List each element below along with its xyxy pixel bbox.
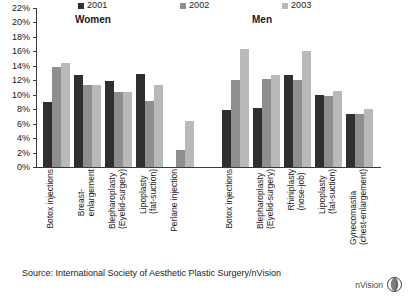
y-axis-tick-label: 6% <box>17 120 30 129</box>
y-axis-tick-label: 20% <box>12 18 30 27</box>
chart-container: 2001 2002 2003 Women Men 22%20%18%16%14%… <box>0 0 409 302</box>
plot-area <box>36 8 381 168</box>
y-axis-tick-label: 14% <box>12 62 30 71</box>
y-axis-tick <box>33 66 36 67</box>
x-axis-category-label: Perlane injection <box>170 169 180 232</box>
bar-women-2003 <box>61 63 70 167</box>
bar-women-2003 <box>154 85 163 167</box>
bar-men-2003 <box>271 75 280 167</box>
logo-label: nVision <box>355 280 383 290</box>
bar-men-2003 <box>240 49 249 167</box>
bar-men-2003 <box>364 109 373 167</box>
bar-men-2001 <box>253 108 262 167</box>
bar-women-2003 <box>92 85 101 167</box>
y-axis-tick-label: 10% <box>12 91 30 100</box>
y-axis-tick-label: 2% <box>17 149 30 158</box>
bar-women-2002 <box>176 150 185 167</box>
bar-men-2001 <box>284 75 293 168</box>
bar-men-2001 <box>222 110 231 167</box>
bar-women-2001 <box>105 81 114 167</box>
bar-women-2001 <box>74 75 83 167</box>
y-axis-tick <box>33 8 36 9</box>
bar-men-2002 <box>355 114 364 167</box>
x-axis-category-label: Botox injections <box>225 169 235 229</box>
bar-men-2002 <box>293 80 302 167</box>
bar-men-2002 <box>324 96 333 167</box>
bar-men-2002 <box>231 80 240 167</box>
y-axis-tick-label: 0% <box>17 163 30 172</box>
y-axis-tick <box>33 167 36 168</box>
x-axis-category-label: Rhiniplasty (nose-job) <box>287 169 306 211</box>
x-axis-category-label: Breast- enlargement <box>77 169 96 216</box>
y-axis-tick <box>33 138 36 139</box>
bar-men-2002 <box>262 79 271 167</box>
x-axis-category-label: Lipoplasty (fat-suction) <box>139 169 158 214</box>
x-axis-line <box>36 167 381 168</box>
y-axis-tick-label: 8% <box>17 105 30 114</box>
bar-men-2001 <box>315 95 324 167</box>
x-axis-category-label: Lipoplasty (fat-suction) <box>318 169 337 214</box>
y-axis-tick-label: 22% <box>12 4 30 13</box>
x-axis-category-label: Blepharoplasty (Eyelid-surgery) <box>256 169 275 229</box>
y-axis-tick-label: 16% <box>12 47 30 56</box>
bar-women-2003 <box>123 92 132 167</box>
y-axis-tick <box>33 22 36 23</box>
bar-women-2003 <box>185 121 194 167</box>
y-axis-tick-label: 18% <box>12 33 30 42</box>
bar-women-2002 <box>83 85 92 167</box>
y-axis-tick <box>33 80 36 81</box>
bar-women-2002 <box>114 92 123 167</box>
y-axis-tick-label: 4% <box>17 134 30 143</box>
y-axis-labels: 22%20%18%16%14%12%10%8%6%4%2%0% <box>0 8 34 168</box>
bar-men-2003 <box>302 51 311 167</box>
x-axis-category-label: Botox injections <box>46 169 56 229</box>
y-axis-tick <box>33 37 36 38</box>
globe-icon <box>386 276 403 293</box>
x-axis-category-label: Blepharoplasty (Eyelid-surgery) <box>108 169 127 229</box>
source-note: Source: International Society of Aesthet… <box>22 268 281 279</box>
bar-women-2002 <box>145 101 154 167</box>
x-axis-category-label: Gynecomastia (chest-enlargement) <box>349 169 368 245</box>
nvision-logo: nVision <box>355 276 403 293</box>
bar-men-2001 <box>346 114 355 167</box>
bar-women-2001 <box>136 74 145 167</box>
x-axis-labels: Botox injectionsBreast- enlargementBleph… <box>36 169 381 261</box>
bar-men-2003 <box>333 91 342 167</box>
y-axis-tick <box>33 51 36 52</box>
bar-women-2001 <box>43 102 52 167</box>
bars-layer <box>37 8 381 167</box>
y-axis-tick <box>33 153 36 154</box>
y-axis-tick <box>33 124 36 125</box>
bar-women-2002 <box>52 67 61 167</box>
y-axis-tick <box>33 109 36 110</box>
y-axis-tick-label: 12% <box>12 76 30 85</box>
y-axis-tick <box>33 95 36 96</box>
